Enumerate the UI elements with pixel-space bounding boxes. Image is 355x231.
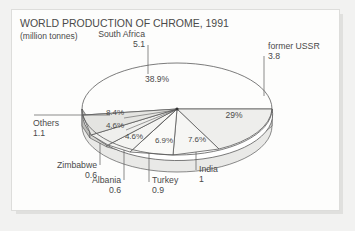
- callout-others-value: 1.1: [33, 128, 45, 138]
- percent-label-others: 8.4%: [106, 108, 124, 117]
- callout-turkey-name: Turkey: [152, 175, 179, 185]
- callout-south-africa-value: 5.1: [133, 39, 145, 49]
- screenshot-canvas: WORLD PRODUCTION OF CHROME, 1991 (millio…: [0, 0, 355, 231]
- chart-card: WORLD PRODUCTION OF CHROME, 1991 (millio…: [11, 9, 340, 211]
- pie-centre-point: [175, 107, 178, 110]
- callout-india-value: 1: [199, 174, 204, 184]
- percent-label-turkey: 6.9%: [155, 136, 173, 145]
- callout-turkey-value: 0.9: [152, 185, 164, 195]
- callout-former-ussr-value: 3.8: [268, 51, 280, 61]
- callout-albania-name: Albania: [92, 175, 121, 185]
- chart-title: WORLD PRODUCTION OF CHROME, 1991: [20, 17, 229, 29]
- callout-india-name: India: [199, 164, 218, 174]
- callout-zimbabwe-name: Zimbabwe: [57, 160, 97, 170]
- percent-label-former-ussr: 29%: [225, 110, 242, 120]
- percent-label-south-africa: 38.9%: [145, 74, 170, 84]
- percent-label-albania: 4.6%: [125, 132, 143, 141]
- callout-south-africa-name: South Africa: [98, 29, 145, 39]
- callout-others-name: Others: [33, 118, 60, 128]
- callout-former-ussr-name: former USSR: [268, 41, 320, 51]
- percent-label-zimbabwe: 4.6%: [106, 121, 124, 130]
- callout-albania-value: 0.6: [109, 185, 121, 195]
- percent-label-india: 7.6%: [188, 135, 206, 144]
- chart-subtitle: (million tonnes): [20, 31, 78, 41]
- pie-chart-figure: WORLD PRODUCTION OF CHROME, 1991 (millio…: [12, 10, 339, 210]
